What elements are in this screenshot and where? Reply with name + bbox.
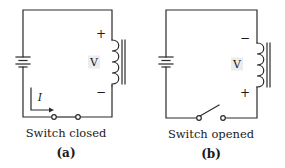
inductor-coil-icon xyxy=(112,40,119,86)
battery-icon xyxy=(16,57,30,67)
voltage-label-a: V xyxy=(88,56,100,69)
polarity-a-bottom: − xyxy=(96,85,106,99)
switch-a-terminal-left xyxy=(52,115,57,120)
polarity-b-bottom: + xyxy=(240,86,250,100)
current-arrowhead-icon xyxy=(49,108,54,113)
wire-b-bottom-left xyxy=(166,67,197,118)
circuit-figure: + V − I Switch closed (a) − V + Switch o… xyxy=(0,0,285,168)
panel-label-a: (a) xyxy=(56,146,75,160)
switch-b-open-lever xyxy=(200,105,219,116)
caption-a: Switch closed xyxy=(26,126,107,140)
polarity-b-top: − xyxy=(240,31,250,45)
voltage-label-b: V xyxy=(231,58,243,71)
circuit-b xyxy=(159,10,270,118)
circuit-diagrams xyxy=(0,0,285,168)
circuit-a xyxy=(16,10,125,117)
inductor-coil-icon xyxy=(257,43,264,87)
switch-b-terminal-right xyxy=(221,116,226,121)
panel-label-b: (b) xyxy=(201,147,221,161)
current-label: I xyxy=(38,91,42,104)
switch-a-terminal-right xyxy=(76,115,81,120)
caption-b: Switch opened xyxy=(168,127,254,141)
battery-icon xyxy=(159,57,173,67)
polarity-a-top: + xyxy=(96,27,106,41)
switch-b-terminal-left xyxy=(197,116,202,121)
